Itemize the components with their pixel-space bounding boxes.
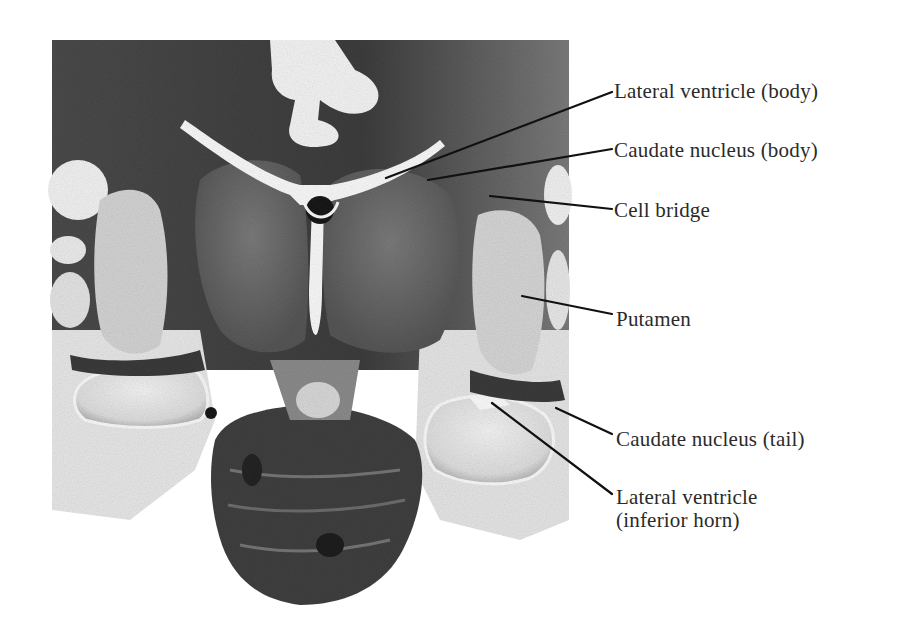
label-putamen: Putamen [616, 308, 691, 331]
label-cell-bridge: Cell bridge [614, 199, 710, 222]
brain-section-figure: Lateral ventricle (body) Caudate nucleus… [0, 0, 913, 619]
label-lateral-ventricle-inferior-horn: Lateral ventricle (inferior horn) [616, 486, 758, 532]
label-lateral-ventricle-body: Lateral ventricle (body) [614, 80, 818, 103]
label-caudate-nucleus-body: Caudate nucleus (body) [614, 139, 818, 162]
tissue-section [48, 40, 572, 605]
label-caudate-nucleus-tail: Caudate nucleus (tail) [616, 428, 805, 451]
